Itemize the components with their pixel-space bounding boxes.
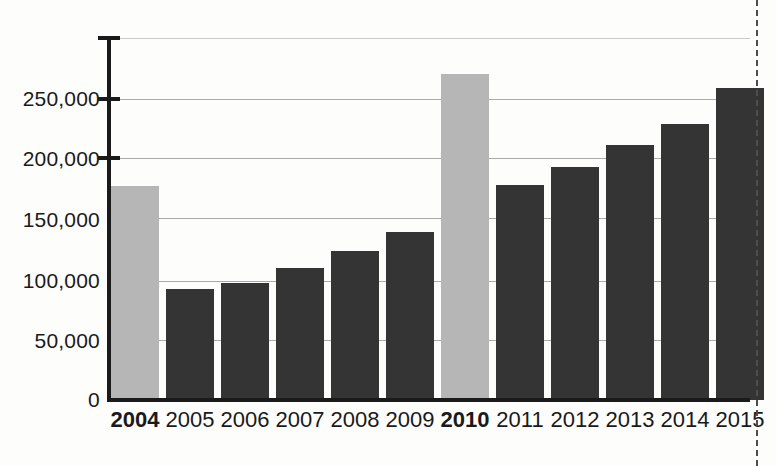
x-tick-label-2013: 2013 xyxy=(603,406,657,434)
bar-2004[interactable] xyxy=(111,186,159,400)
bar-group xyxy=(110,38,750,400)
bar-2010[interactable] xyxy=(441,74,489,400)
y-tick-300000 xyxy=(98,36,120,40)
bar-2013[interactable] xyxy=(606,145,654,400)
y-tick-label-50000: 50,000 xyxy=(4,330,100,351)
x-tick-label-2007: 2007 xyxy=(273,406,327,434)
x-tick-label-2010: 2010 xyxy=(438,406,492,434)
bar-2006[interactable] xyxy=(221,283,269,400)
bar-2007[interactable] xyxy=(276,268,324,400)
x-tick-label-2009: 2009 xyxy=(383,406,437,434)
x-tick-label-2014: 2014 xyxy=(658,406,712,434)
crop-mark-dashed-line xyxy=(756,0,758,466)
bar-chart-figure: 250,000 200,000 150,000 100,000 50,000 0… xyxy=(0,0,776,466)
y-axis-spine xyxy=(107,36,111,402)
x-tick-label-2012: 2012 xyxy=(548,406,602,434)
y-tick-250000 xyxy=(98,97,120,101)
bar-2008[interactable] xyxy=(331,251,379,400)
x-tick-label-2008: 2008 xyxy=(328,406,382,434)
y-tick-label-200000: 200,000 xyxy=(4,148,100,169)
y-tick-label-250000: 250,000 xyxy=(4,88,100,109)
x-axis-spine xyxy=(107,398,750,402)
x-axis-labels: 2004 2005 2006 2007 2008 2009 2010 2011 … xyxy=(110,406,755,440)
x-tick-label-2015: 2015 xyxy=(713,406,767,434)
bar-2014[interactable] xyxy=(661,124,709,400)
y-tick-200000 xyxy=(98,156,120,160)
x-tick-label-2006: 2006 xyxy=(218,406,272,434)
x-tick-label-2011: 2011 xyxy=(493,406,547,434)
bar-2012[interactable] xyxy=(551,167,599,400)
bar-2011[interactable] xyxy=(496,185,544,400)
y-tick-label-150000: 150,000 xyxy=(4,209,100,230)
y-axis-labels: 250,000 200,000 150,000 100,000 50,000 0 xyxy=(0,0,100,466)
bar-2005[interactable] xyxy=(166,289,214,400)
x-tick-label-2004: 2004 xyxy=(108,406,162,434)
y-tick-label-0: 0 xyxy=(4,389,100,410)
bar-2009[interactable] xyxy=(386,232,434,400)
y-tick-label-100000: 100,000 xyxy=(4,270,100,291)
x-tick-label-2005: 2005 xyxy=(163,406,217,434)
